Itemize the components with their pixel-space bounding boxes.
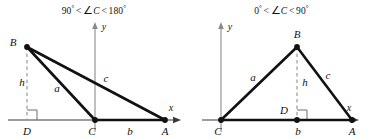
obtuse-label-a: a [54, 82, 60, 94]
acute-vertex-point-C [218, 117, 224, 123]
obtuse-label-c: c [104, 72, 109, 84]
obtuse-side-a [27, 47, 95, 120]
obtuse-vertex-point-A [162, 117, 168, 123]
obtuse-label-C: C [88, 125, 96, 137]
acute-label-A: A [348, 125, 356, 137]
acute-triangle-diagram: B a h c D C b A x y [188, 0, 375, 139]
acute-label-D: D [279, 104, 288, 116]
obtuse-side-c [27, 47, 165, 120]
triangle-altitude-figure: 90°<∠C<180° B [0, 0, 375, 139]
obtuse-label-D: D [22, 125, 31, 137]
acute-label-x-axis: x [346, 102, 352, 113]
panel-obtuse-triangle: 90°<∠C<180° B [0, 0, 188, 139]
acute-y-axis [218, 22, 224, 132]
obtuse-label-h: h [19, 76, 25, 88]
panel-acute-triangle: 0°<∠C<90° [188, 0, 375, 139]
obtuse-vertex-point-C [92, 117, 98, 123]
acute-vertex-point-B [294, 44, 300, 50]
obtuse-label-y-axis: y [101, 21, 107, 32]
acute-label-B: B [294, 28, 301, 40]
acute-label-y-axis: y [227, 21, 233, 32]
obtuse-label-x-axis: x [168, 102, 174, 113]
obtuse-label-B: B [10, 36, 17, 48]
acute-foot-point-D [294, 117, 300, 123]
acute-label-a: a [250, 71, 256, 83]
acute-label-C: C [214, 125, 222, 137]
obtuse-triangle-diagram: B h a c D C b A x y [0, 0, 188, 139]
obtuse-label-b: b [127, 125, 133, 137]
obtuse-vertex-point-B [24, 44, 30, 50]
obtuse-label-A: A [161, 125, 169, 137]
acute-vertex-point-A [349, 117, 355, 123]
right-angle-marker-icon [27, 110, 37, 120]
acute-label-c: c [326, 69, 331, 81]
acute-label-h: h [302, 76, 308, 88]
acute-label-b: b [295, 125, 301, 137]
obtuse-y-axis [92, 22, 98, 132]
